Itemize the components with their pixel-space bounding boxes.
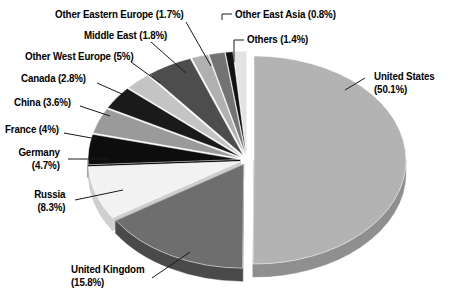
pie-chart: Others (1.4%)Other East Asia (0.8%)Other…: [0, 0, 449, 300]
source-note: Source: U.S. Arms Control and Disarmamen…: [360, 128, 449, 133]
leader-line-other-east-asia: [222, 14, 232, 20]
source-note-wrapper: Source: U.S. Arms Control and Disarmamen…: [435, 128, 449, 298]
slice-label-france: France (4%): [5, 123, 59, 136]
slice-label-other-east-asia: Other East Asia (0.8%): [235, 8, 336, 21]
slice-label-china: China (3.6%): [14, 96, 71, 109]
slice-label-middle-east: Middle East (1.8%): [84, 29, 167, 42]
slice-label-russia: Russia (8.3%): [17, 188, 65, 213]
slice-label-canada: Canada (2.8%): [21, 72, 86, 85]
slice-label-other-eastern-europe: Other Eastern Europe (1.7%): [55, 8, 184, 21]
slice-label-other-west-europe: Other West Europe (5%): [25, 50, 134, 63]
pie-slices-group: Others (1.4%)Other East Asia (0.8%)Other…: [88, 51, 406, 281]
slice-label-germany: Germany (4.7%): [17, 146, 60, 171]
slice-label-united-states: United States (50.1%): [374, 70, 435, 95]
pie-chart-canvas: Others (1.4%)Other East Asia (0.8%)Other…: [0, 0, 449, 300]
slice-label-united-kingdom: United Kingdom (15.8%): [71, 263, 144, 288]
slice-label-others: Others (1.4%): [247, 33, 308, 46]
